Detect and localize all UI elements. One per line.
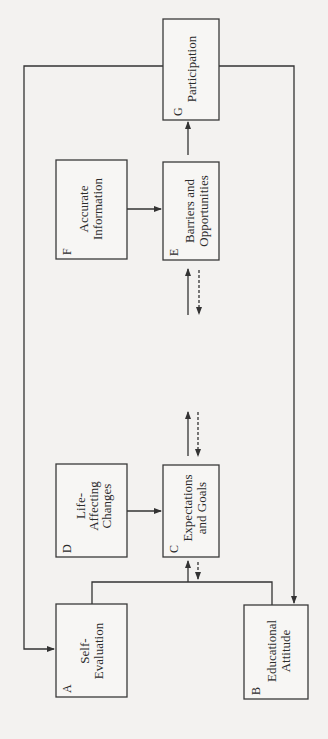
ab-connector <box>92 582 272 605</box>
node-g-participation: G Participation <box>163 19 219 120</box>
node-c-letter: C <box>167 545 181 553</box>
node-g-letter: G <box>171 107 185 116</box>
feedback-loop-g-to-a <box>24 66 163 649</box>
feedback-loop-g-to-b <box>219 66 294 603</box>
node-f-line-1: Accurate <box>76 185 91 232</box>
node-a-line-1: Self- <box>77 638 92 663</box>
node-b-letter: B <box>249 687 263 695</box>
node-e-line-1: Barriers and <box>182 179 197 243</box>
node-e-barriers-opportunities: E Barriers and Opportunities <box>163 162 219 260</box>
flow-diagram: G Participation F Accurate Information E… <box>0 0 328 739</box>
node-a-line-2: Evaluation <box>91 622 106 679</box>
node-b-line-1: Educational <box>264 620 279 682</box>
node-b-educational-attitude: B Educational Attitude <box>244 605 308 699</box>
node-c-line-1: Expectations <box>180 474 195 541</box>
node-f-accurate-information: F Accurate Information <box>56 160 127 259</box>
node-g-line-1: Participation <box>184 35 199 102</box>
node-a-self-evaluation: A Self- Evaluation <box>56 604 127 697</box>
node-f-line-2: Information <box>90 177 105 240</box>
node-c-line-2: and Goals <box>194 482 209 534</box>
node-e-letter: E <box>167 249 181 256</box>
node-b-line-2: Attitude <box>278 629 293 672</box>
node-d-line-3: Changes <box>99 484 114 529</box>
node-c-expectations-goals: C Expectations and Goals <box>163 465 219 557</box>
node-d-life-affecting-changes: D Life- Affecting Changes <box>56 464 127 557</box>
node-d-letter: D <box>60 544 74 553</box>
node-a-letter: A <box>60 684 74 693</box>
node-f-letter: F <box>60 248 74 255</box>
node-e-line-2: Opportunities <box>196 175 211 247</box>
